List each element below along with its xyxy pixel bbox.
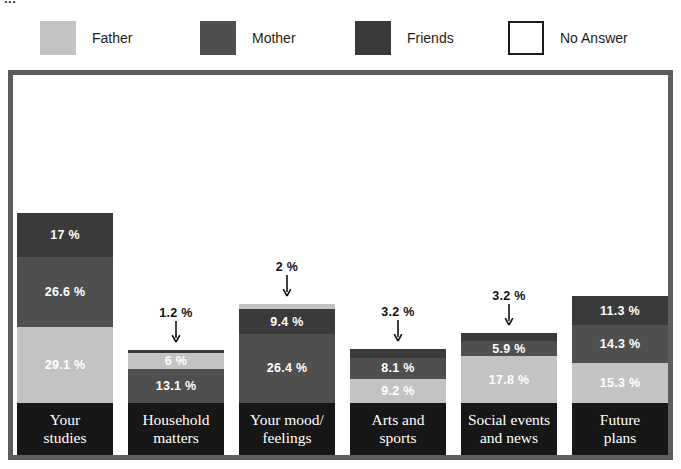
bar-segment-no_answer[interactable]: [461, 75, 557, 333]
legend-label: Friends: [407, 30, 454, 46]
segment-value-label: 14.3 %: [600, 337, 641, 351]
bar-segment-father[interactable]: 6 %: [128, 353, 224, 369]
segment-value-label: 8.1 %: [381, 361, 414, 375]
legend-label: No Answer: [560, 30, 628, 46]
legend-swatch-icon: [355, 21, 391, 55]
bar-segment-father[interactable]: 29.1 %: [17, 327, 113, 403]
legend-label: Father: [92, 30, 132, 46]
category-label: Social events and news: [468, 411, 550, 447]
legend-item-no-answer[interactable]: No Answer: [508, 18, 628, 58]
plot-area: 17 %26.6 %29.1 %Your studies6 %13.1 %Hou…: [13, 75, 668, 455]
bar-segment-friends[interactable]: 17 %: [17, 213, 113, 258]
segment-value-label: 5.9 %: [492, 342, 525, 356]
segment-value-label: 26.4 %: [267, 361, 308, 375]
legend-item-mother[interactable]: Mother: [200, 18, 296, 58]
category-label: Arts and sports: [372, 411, 425, 447]
bar-column[interactable]: 5.9 %17.8 %Social events and news: [461, 75, 557, 455]
segment-value-label: 9.2 %: [381, 384, 414, 398]
bar-segment-mother[interactable]: 26.6 %: [17, 257, 113, 327]
segment-value-label: 9.4 %: [270, 315, 303, 329]
segment-value-label: 15.3 %: [600, 376, 641, 390]
category-label: Household matters: [142, 411, 209, 447]
bar-segment-friends[interactable]: [461, 333, 557, 341]
legend-item-father[interactable]: Father: [40, 18, 132, 58]
category-label-band: Household matters: [128, 403, 224, 455]
legend-swatch-icon: [40, 21, 76, 55]
chart-root: ... FatherMotherFriendsNo Answer 17 %26.…: [0, 0, 681, 469]
bar-segment-no_answer[interactable]: [17, 75, 113, 213]
bar-segment-friends[interactable]: 9.4 %: [239, 309, 335, 334]
legend-item-friends[interactable]: Friends: [355, 18, 454, 58]
bar-segment-no_answer[interactable]: [128, 75, 224, 350]
bar-column[interactable]: 8.1 %9.2 %Arts and sports: [350, 75, 446, 455]
bar-segment-father[interactable]: 17.8 %: [461, 356, 557, 403]
legend-swatch-icon: [200, 21, 236, 55]
bar-column[interactable]: 11.3 %14.3 %15.3 %Future plans: [572, 75, 668, 455]
category-label-band: Arts and sports: [350, 403, 446, 455]
segment-value-label: 11.3 %: [600, 304, 640, 318]
bar-column[interactable]: 17 %26.6 %29.1 %Your studies: [17, 75, 113, 455]
category-label: Future plans: [600, 411, 640, 447]
segment-value-label: 17.8 %: [489, 373, 530, 387]
segment-value-label: 13.1 %: [156, 379, 197, 393]
category-label-band: Future plans: [572, 403, 668, 455]
bar-segment-father[interactable]: 9.2 %: [350, 379, 446, 403]
bar-segment-no_answer[interactable]: [350, 75, 446, 349]
bar-segment-no_answer[interactable]: [239, 75, 335, 304]
bar-column[interactable]: 6 %13.1 %Household matters: [128, 75, 224, 455]
bar-segment-mother[interactable]: 13.1 %: [128, 369, 224, 403]
bar-segment-mother[interactable]: 26.4 %: [239, 334, 335, 403]
bar-segment-mother[interactable]: 5.9 %: [461, 341, 557, 356]
chart-legend: FatherMotherFriendsNo Answer: [0, 18, 681, 62]
category-label-band: Your studies: [17, 403, 113, 455]
bar-segment-mother[interactable]: 14.3 %: [572, 325, 668, 362]
plot-frame: 17 %26.6 %29.1 %Your studies6 %13.1 %Hou…: [8, 70, 673, 460]
bar-segment-mother[interactable]: 8.1 %: [350, 358, 446, 379]
category-label: Your studies: [43, 411, 86, 447]
segment-value-label: 29.1 %: [45, 358, 86, 372]
legend-swatch-icon: [508, 21, 544, 55]
category-label: Your mood/ feelings: [250, 411, 324, 447]
bar-segment-friends[interactable]: 11.3 %: [572, 296, 668, 326]
legend-label: Mother: [252, 30, 296, 46]
category-label-band: Social events and news: [461, 403, 557, 455]
bar-segment-friends[interactable]: [350, 349, 446, 357]
title-fragment: ...: [4, 0, 16, 6]
segment-value-label: 26.6 %: [45, 285, 86, 299]
bar-segment-no_answer[interactable]: [572, 75, 668, 296]
bar-column[interactable]: 9.4 %26.4 %Your mood/ feelings: [239, 75, 335, 455]
segment-value-label: 17 %: [50, 228, 80, 242]
segment-value-label: 6 %: [165, 354, 187, 368]
category-label-band: Your mood/ feelings: [239, 403, 335, 455]
bar-segment-father[interactable]: 15.3 %: [572, 363, 668, 403]
